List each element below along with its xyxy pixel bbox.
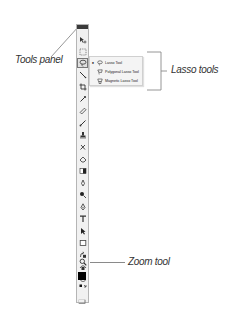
path-selection-tool-icon[interactable] [78,226,87,235]
tools-panel-titlebar[interactable] [77,25,88,29]
eraser-tool-icon[interactable] [78,154,87,163]
pen-tool-icon[interactable] [78,202,87,211]
history-brush-tool-icon[interactable] [78,142,87,151]
dodge-tool-icon[interactable] [78,190,87,199]
healing-brush-tool-icon[interactable] [78,106,87,115]
lasso-icon [96,59,103,66]
menu-item-magnetic-lasso-tool[interactable]: Magnetic Lasso Tool [90,76,142,85]
crop-tool-icon[interactable] [78,82,87,91]
move-tool-icon[interactable] [78,35,87,44]
zoom-tool-callout-label: Zoom tool [128,256,170,267]
lasso-tools-callout-label: Lasso tools [171,64,218,75]
lasso-tool-icon[interactable] [77,58,88,68]
menu-item-label: Lasso Tool [105,61,122,65]
lasso-tools-flyout-menu: ● Lasso Tool Polygonal Lasso Tool Magnet… [89,56,143,86]
zoom-tool-leader-line [90,262,125,263]
clone-stamp-tool-icon[interactable] [78,130,87,139]
screen-mode-icon [78,299,86,305]
brush-tool-icon[interactable] [78,118,87,127]
marquee-tool-icon[interactable] [78,47,87,56]
zoom-tool-button[interactable] [77,257,88,266]
shape-tool-icon[interactable] [78,238,87,247]
screen-mode-button[interactable] [78,291,86,297]
menu-item-lasso-tool[interactable]: ● Lasso Tool [90,58,142,67]
default-colors-icon[interactable] [78,284,87,290]
lasso-tools-bracket [146,50,168,92]
menu-item-label: Polygonal Lasso Tool [105,70,139,74]
type-tool-icon[interactable] [78,214,87,223]
gradient-tool-icon[interactable] [78,166,87,175]
menu-item-label: Magnetic Lasso Tool [105,79,138,83]
magnifier-icon [79,258,87,266]
menu-item-polygonal-lasso-tool[interactable]: Polygonal Lasso Tool [90,67,142,76]
blur-tool-icon[interactable] [78,178,87,187]
quick-selection-tool-icon[interactable] [78,70,87,79]
polygonal-lasso-icon [96,68,103,75]
eyedropper-tool-icon[interactable] [78,94,87,103]
foreground-color-swatch[interactable] [78,272,86,280]
magnetic-lasso-icon [96,77,103,84]
